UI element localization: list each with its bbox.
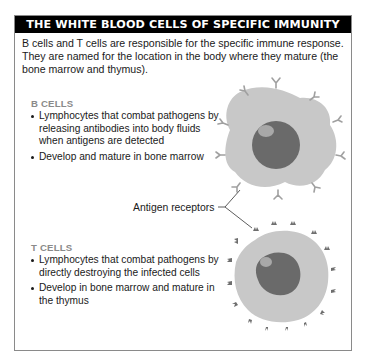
- cell-illustrations: [0, 0, 367, 360]
- callout-leader-lines: [218, 190, 252, 228]
- b-cell-illustration: [216, 78, 345, 199]
- t-cell-illustration: [227, 221, 336, 331]
